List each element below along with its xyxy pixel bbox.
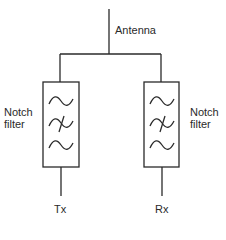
right-filter-label-line1: Notch [190,106,219,118]
right-filter-label: Notch filter [190,106,219,130]
right-notch-filter-box [144,82,179,167]
cross-stroke [59,116,64,132]
left-filter-label-line1: Notch [4,106,33,118]
right-filter-symbols [150,97,174,149]
sine-icon [150,97,174,105]
sine-icon [150,141,174,149]
cross-stroke [160,116,165,132]
tx-port-label: Tx [54,203,66,215]
sine-icon [49,97,73,105]
antenna-label: Antenna [115,24,156,36]
sine-icon [49,141,73,149]
left-filter-label-line2: filter [4,118,33,130]
right-filter-label-line2: filter [190,118,219,130]
rx-port-label: Rx [155,203,168,215]
left-filter-label: Notch filter [4,106,33,130]
left-filter-symbols [49,97,73,149]
